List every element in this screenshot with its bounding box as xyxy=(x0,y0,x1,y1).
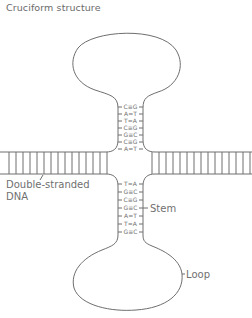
junction-upper-left xyxy=(0,140,118,152)
right-dna-rungs xyxy=(152,152,250,174)
base-pair: A=T xyxy=(124,110,137,117)
base-pair: T=A xyxy=(123,117,138,124)
base-pair: G≡C xyxy=(124,204,138,211)
dna-label-line2: DNA xyxy=(6,191,28,202)
base-pair: C≡G xyxy=(124,124,138,131)
base-pair: C≡G xyxy=(124,103,138,110)
base-pair: G≡C xyxy=(124,228,138,235)
upper-loop xyxy=(73,33,180,108)
lower-stem-base-pairs: T=A G≡C C≡G G≡C A=T T=A G≡C xyxy=(123,180,138,235)
left-dna-rungs xyxy=(9,152,107,174)
base-pair: T=A xyxy=(123,220,138,227)
stem-label: Stem xyxy=(150,203,176,214)
base-pair: C≡G xyxy=(124,138,138,145)
base-pair: T=A xyxy=(123,180,138,187)
junction-upper-right xyxy=(143,140,252,152)
base-pair: G≡C xyxy=(124,131,138,138)
base-pair: A=T xyxy=(124,145,137,152)
base-pair: C≡G xyxy=(124,196,138,203)
base-pair: A=T xyxy=(124,212,137,219)
junction-lower-right xyxy=(143,174,252,186)
lower-loop xyxy=(73,235,182,310)
base-pair: G≡C xyxy=(124,188,138,195)
cruciform-diagram: C≡G A=T T=A C≡G G≡C C≡G A=T T=A G≡C C≡G … xyxy=(0,0,252,318)
upper-stem-base-pairs: C≡G A=T T=A C≡G G≡C C≡G A=T xyxy=(123,103,138,152)
loop-label: Loop xyxy=(186,269,210,280)
dna-label-line1: Double-stranded xyxy=(6,179,90,190)
